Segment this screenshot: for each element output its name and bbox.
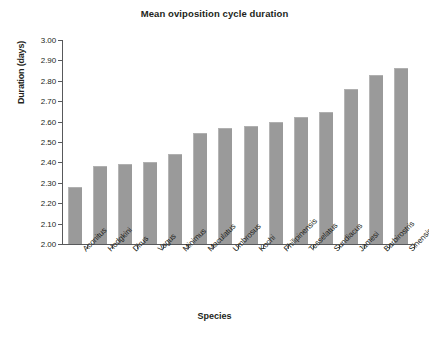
bar (394, 68, 408, 244)
x-axis-category-label: Tesselatus (307, 247, 313, 253)
x-axis-title: Species (0, 311, 429, 321)
bar (168, 154, 182, 244)
bar (344, 89, 358, 244)
x-axis-category-label: Philipinensis (282, 247, 288, 253)
y-axis-tick-label: 2.40 (41, 158, 56, 167)
x-axis-category-label: Minimus (181, 247, 187, 253)
y-axis-tick-label: 2.50 (41, 138, 56, 147)
bar (369, 75, 383, 244)
y-axis-tick-label: 3.00 (41, 36, 56, 45)
x-axis-category-labels: AconitusHodgkiniDirusVagusMinimusMaculat… (62, 247, 422, 309)
y-axis-tick-label: 2.10 (41, 219, 56, 228)
y-axis-tick-label: 2.20 (41, 199, 56, 208)
y-axis-tick-label: 2.70 (41, 97, 56, 106)
x-axis-category-label: Barbirostris (382, 247, 388, 253)
plot-area: 3.002.902.802.702.602.502.402.302.202.10… (62, 40, 414, 245)
bars-layer (62, 40, 414, 244)
x-axis-category-label: Dirus (131, 247, 137, 253)
bar (269, 122, 283, 244)
x-axis-category-label: Vagus (156, 247, 162, 253)
x-axis-category-label: Aconitus (81, 247, 87, 253)
y-axis-tick-label: 2.30 (41, 178, 56, 187)
y-axis-tick-label: 2.80 (41, 76, 56, 85)
bar (143, 162, 157, 244)
y-axis-tick-label: 2.00 (41, 240, 56, 249)
y-axis-title: Duration (days) (16, 0, 26, 104)
y-axis-tick-label: 2.90 (41, 56, 56, 65)
x-axis-category-label: Maculatus (206, 247, 212, 253)
x-axis-category-label: Hodgkini (106, 247, 112, 253)
x-axis-category-label: Umbrosus (231, 247, 237, 253)
x-axis-category-label: Sundiacus (332, 247, 338, 253)
chart-title: Mean oviposition cycle duration (0, 8, 429, 19)
bar (68, 187, 82, 244)
y-axis-tick-label: 2.60 (41, 117, 56, 126)
x-axis-category-label: Jamesi (357, 247, 363, 253)
bar-chart: Mean oviposition cycle duration Duration… (0, 0, 429, 339)
y-axis-tick (58, 244, 62, 245)
x-axis-category-label: Kochi (257, 247, 263, 253)
x-axis-category-label: Sinensis (407, 247, 413, 253)
